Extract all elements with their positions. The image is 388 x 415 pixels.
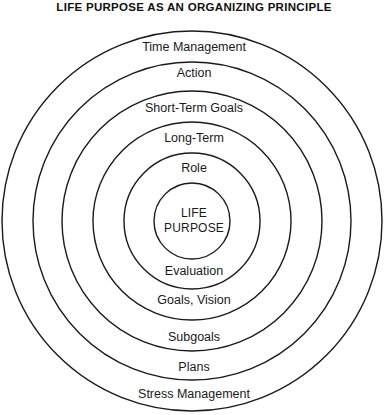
ring-label-stress-management: Stress Management [0,387,388,401]
life-purpose-diagram: LIFE PURPOSE AS AN ORGANIZING PRINCIPLE … [0,0,388,415]
ring-label-subgoals: Subgoals [0,330,388,344]
ring-label-short-term-goals: Short-Term Goals [0,101,388,115]
ring-label-time-management: Time Management [0,40,388,54]
ring-label-action: Action [0,66,388,80]
core-label-life: LIFE [0,206,388,221]
ring-label-evaluation: Evaluation [0,264,388,278]
ring-label-plans: Plans [0,360,388,374]
core-label-purpose: PURPOSE [0,221,388,236]
ring-label-role: Role [0,161,388,175]
ring-label-goals-vision: Goals, Vision [0,293,388,307]
ring-label-long-term: Long-Term [0,131,388,145]
